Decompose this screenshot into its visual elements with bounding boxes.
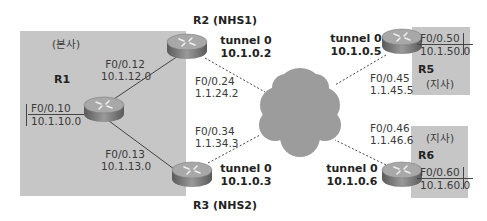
hq-region-label: (본사): [52, 38, 80, 50]
r5-lan-segment: [463, 33, 464, 55]
r2-tunnel-ip: 10.1.0.2: [218, 48, 274, 60]
r5-wan-ip: 1.1.45.5: [370, 84, 413, 96]
r3-wan-ip: 1.1.34.3: [195, 137, 238, 149]
r3-tunnel-ip: 10.1.0.3: [218, 176, 274, 188]
r5-lan-subnet: F0/0.50 10.1.50.0: [417, 32, 473, 57]
r6-lan-subnet: F0/0.60 10.1.60.0: [417, 166, 473, 191]
r6-wan-if: F0/0.46: [370, 122, 410, 134]
router-r1-icon[interactable]: [82, 95, 126, 123]
router-r2-icon[interactable]: [165, 32, 209, 60]
r2-wan-ip: 1.1.24.2: [195, 87, 238, 99]
r5-tunnel-ip: 10.1.0.5: [328, 46, 384, 58]
r3-tunnel-label: tunnel 0: [218, 163, 274, 175]
r6-wan-ip: 1.1.46.6: [370, 134, 413, 146]
r1-lan-segment: [26, 104, 27, 126]
r1-link-r2-net: 10.1.12.0: [101, 70, 149, 82]
r5-lan-net: 10.1.50.0: [417, 45, 473, 57]
r5-wan-if: F0/0.45: [370, 72, 410, 84]
r5-region-label: (지사): [426, 78, 454, 90]
router-r3-icon[interactable]: [170, 160, 214, 188]
r1-link-r3-if: F0/0.13: [103, 148, 147, 160]
r5-name: R5: [418, 64, 434, 76]
r2-wan-if: F0/0.24: [195, 75, 235, 87]
r2-tunnel-label: tunnel 0: [218, 35, 274, 47]
r1-lan-if: F0/0.10: [28, 102, 84, 115]
r6-lan-net: 10.1.60.0: [417, 179, 473, 191]
r1-lan-subnet: F0/0.10 10.1.10.0: [28, 102, 84, 127]
r1-name: R1: [54, 74, 70, 86]
r6-region-label: (지사): [426, 132, 454, 144]
r5-tunnel-label: tunnel 0: [328, 33, 384, 45]
r6-name: R6: [418, 150, 434, 162]
r2-name: R2 (NHS1): [193, 15, 257, 27]
r6-lan-if: F0/0.60: [417, 166, 473, 179]
r1-link-r2-if: F0/0.12: [103, 58, 147, 70]
r3-name: R3 (NHS2): [193, 200, 257, 212]
r1-lan-net: 10.1.10.0: [28, 115, 84, 127]
r6-tunnel-ip: 10.1.0.6: [324, 176, 380, 188]
r5-lan-if: F0/0.50: [417, 32, 473, 45]
r3-wan-if: F0/0.34: [195, 125, 235, 137]
wan-cloud-icon: [259, 68, 341, 157]
r6-lan-segment: [463, 167, 464, 189]
r6-tunnel-label: tunnel 0: [324, 163, 380, 175]
r1-link-r3-net: 10.1.13.0: [101, 160, 149, 172]
